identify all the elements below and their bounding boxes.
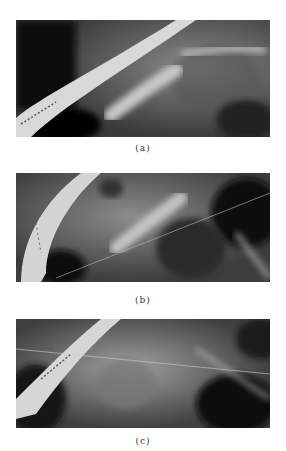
caption-b: (b) — [0, 295, 286, 305]
xray-image-c — [16, 319, 270, 428]
caption-a: (a) — [0, 143, 286, 153]
xray-image-a — [16, 20, 270, 137]
caption-c: (c) — [0, 436, 286, 446]
xray-image-b — [16, 173, 270, 282]
